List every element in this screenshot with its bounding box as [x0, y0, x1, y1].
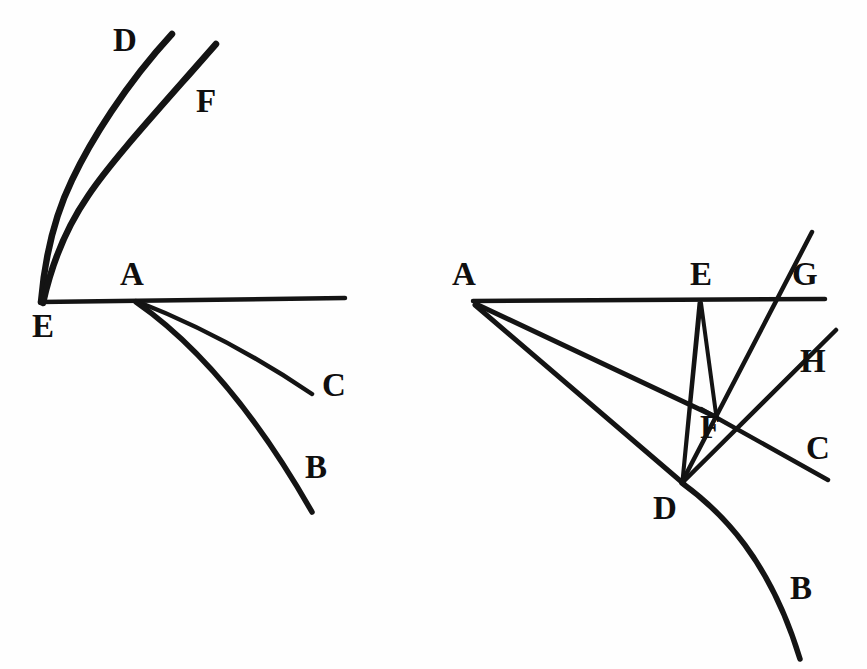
- right-label-A: A: [452, 258, 476, 291]
- stroke-left-axis-EA: [40, 298, 345, 302]
- left-label-F: F: [196, 85, 216, 118]
- diagram-canvas: DFAECBAEGHFCDB: [0, 0, 867, 669]
- stroke-right-ray-A-to-D: [475, 305, 684, 484]
- left-label-E: E: [32, 310, 54, 343]
- stroke-left-ray-B: [136, 302, 312, 512]
- right-label-H: H: [800, 345, 826, 378]
- left-label-A: A: [120, 258, 144, 291]
- stroke-right-axis-AG: [473, 299, 825, 301]
- right-label-F: F: [700, 411, 720, 444]
- right-label-B: B: [790, 572, 812, 605]
- stroke-right-curve-D-to-B: [682, 483, 800, 659]
- right-label-E: E: [690, 258, 712, 291]
- left-label-D: D: [113, 24, 137, 57]
- stroke-right-wedge-E-to-F: [701, 303, 716, 414]
- stroke-right-ray-A-to-F: [476, 304, 716, 417]
- left-label-B: B: [305, 451, 327, 484]
- left-label-C: C: [322, 369, 346, 402]
- geometric-diagram-svg: [0, 0, 867, 669]
- right-label-G: G: [792, 258, 818, 291]
- right-label-D: D: [653, 492, 677, 525]
- right-label-C: C: [806, 432, 830, 465]
